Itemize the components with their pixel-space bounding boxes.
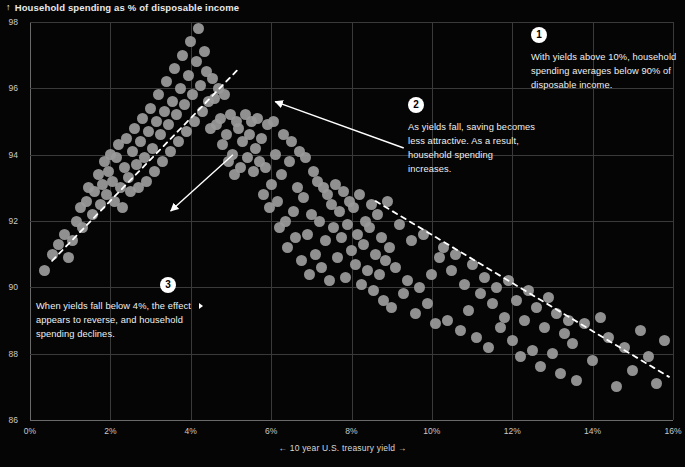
scatter-point [491,282,502,293]
scatter-point [159,106,170,117]
scatter-point [364,222,375,233]
scatter-point [314,216,325,227]
scatter-point [384,242,395,253]
scatter-point [394,219,405,230]
scatter-point [659,335,670,346]
scatter-point [332,252,343,263]
scatter-point [155,129,166,140]
scatter-point [414,282,425,293]
x-tick-label: 0% [24,426,36,436]
scatter-point [316,262,327,273]
scatter-point [221,129,232,140]
x-tick-label: 2% [104,426,116,436]
scatter-point [350,259,361,270]
scatter-point [81,196,92,207]
scatter-point [276,169,287,180]
scatter-point [288,206,299,217]
scatter-point [475,288,486,299]
scatter-point [165,146,176,157]
scatter-point [197,106,208,117]
scatter-point [179,99,190,110]
scatter-point [187,89,198,100]
scatter-point [519,315,530,326]
scatter-point [296,255,307,266]
scatter-point [177,50,188,61]
scatter-point [153,89,164,100]
scatter-point [438,242,449,253]
scatter-point [499,312,510,323]
scatter-point [121,133,132,144]
scatter-point [479,272,490,283]
scatter-point [145,103,156,114]
scatter-point [298,192,309,203]
scatter-point [446,265,457,276]
scatter-point [563,315,574,326]
y-tick-label: 94 [0,150,18,160]
scatter-point [127,146,138,157]
scatter-point [280,216,291,227]
scatter-point [195,80,206,91]
scatter-point [430,318,441,329]
scatter-point [270,149,281,160]
scatter-point [173,136,184,147]
scatter-point [362,265,373,276]
scatter-point [352,229,363,240]
annotation-3-badge: 3 [160,277,176,293]
scatter-point [418,229,429,240]
scatter-point [233,123,244,134]
scatter-point [147,143,158,154]
scatter-point [635,325,646,336]
scatter-point [611,381,622,392]
scatter-point [398,288,409,299]
scatter-point [340,272,351,283]
scatter-point [227,149,238,160]
scatter-point [487,298,498,309]
scatter-point [290,232,301,243]
y-tick-label: 90 [0,282,18,292]
annotation-2-badge: 2 [408,97,424,113]
scatter-point [266,179,277,190]
scatter-point [527,345,538,356]
scatter-point [324,275,335,286]
scatter-point [282,242,293,253]
scatter-point [595,312,606,323]
scatter-point [579,318,590,329]
scatter-point [450,249,461,260]
scatter-point [117,202,128,213]
scatter-point [410,308,421,319]
scatter-point [356,279,367,290]
scatter-point [627,365,638,376]
scatter-point [471,332,482,343]
scatter-point [47,249,58,260]
scatter-point [252,113,263,124]
x-tick-label: 8% [345,426,357,436]
scatter-point [386,302,397,313]
y-tick-label: 98 [0,17,18,27]
scatter-point [135,136,146,147]
scatter-point [402,275,413,286]
scatter-point [543,292,554,303]
x-tick-label: 12% [504,426,521,436]
x-axis-label: ← 10 year U.S. treasury yield → [0,443,685,453]
chart-root: ↑ Household spending as % of disposable … [0,0,685,467]
scatter-point [199,46,210,57]
scatter-point [651,378,662,389]
scatter-point [272,196,283,207]
scatter-point [242,152,253,163]
triangle-right-icon [199,303,203,309]
scatter-point [219,89,230,100]
scatter-point [171,109,182,120]
scatter-point [304,269,315,280]
scatter-point [382,196,393,207]
scatter-point [193,23,204,34]
scatter-point [53,239,64,250]
scatter-point [141,176,152,187]
scatter-point [587,355,598,366]
scatter-point [376,232,387,243]
scatter-point [368,285,379,296]
gridline-horizontal [30,420,673,421]
scatter-point [348,202,359,213]
scatter-point [442,315,453,326]
scatter-point [515,351,526,362]
scatter-point [149,166,160,177]
